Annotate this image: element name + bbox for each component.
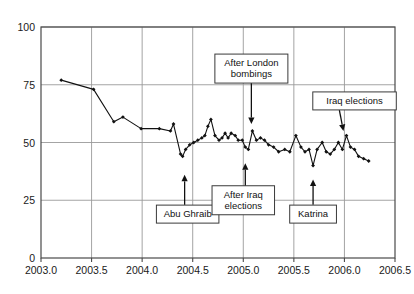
y-axis-tick-labels: 0255075100 (17, 21, 35, 264)
x-tick-label: 2006.5 (379, 264, 411, 276)
x-tick-label: 2004.5 (177, 264, 209, 276)
chart-container: 0255075100 2003.02003.52004.02004.52005.… (0, 0, 414, 294)
data-point-marker (209, 118, 213, 122)
y-tick-label: 75 (23, 79, 35, 91)
annotation-arrow-shaft (339, 110, 342, 124)
data-point-marker (345, 134, 349, 138)
data-point-marker (367, 159, 371, 163)
data-point-marker (294, 134, 298, 138)
annotation-label-iraq-elections: Iraq elections (326, 95, 383, 106)
annotation-label-after-iraq-elections: After Iraq (224, 189, 263, 200)
annotation-label-after-london-bombings: bombings (231, 68, 272, 79)
x-tick-label: 2003.5 (76, 264, 108, 276)
annotation-label-katrina: Katrina (298, 208, 329, 219)
y-tick-label: 25 (23, 194, 35, 206)
data-point-marker (362, 157, 366, 161)
x-tick-label: 2005.5 (278, 264, 310, 276)
annotation-label-abu-ghraib: Abu Ghraib (164, 208, 212, 219)
data-point-marker (157, 127, 161, 131)
data-point-marker (288, 150, 292, 154)
data-point-marker (59, 78, 63, 82)
approval-rating-line-chart: 0255075100 2003.02003.52004.02004.52005.… (0, 0, 414, 294)
annotation-label-after-london-bombings: After London (224, 57, 278, 68)
data-point-marker (250, 129, 254, 133)
x-tick-label: 2005.0 (227, 264, 259, 276)
data-point-marker (206, 124, 210, 128)
data-point-marker (311, 164, 315, 168)
data-point-marker (283, 148, 287, 152)
y-tick-label: 50 (23, 137, 35, 149)
x-tick-label: 2006.0 (328, 264, 360, 276)
axis-tick-marks (41, 258, 395, 262)
data-point-marker (169, 129, 173, 133)
annotation-arrow-head (182, 175, 188, 182)
x-axis-tick-labels: 2003.02003.52004.02004.52005.02005.52006… (25, 264, 411, 276)
data-point-marker (172, 122, 176, 126)
annotation-arrow-head (310, 179, 316, 186)
annotation-label-after-iraq-elections: elections (225, 200, 263, 211)
annotation-arrow-head (248, 118, 254, 125)
y-tick-label: 100 (17, 21, 35, 33)
y-tick-label: 0 (29, 252, 35, 264)
x-tick-label: 2004.0 (126, 264, 158, 276)
x-tick-label: 2003.0 (25, 264, 57, 276)
